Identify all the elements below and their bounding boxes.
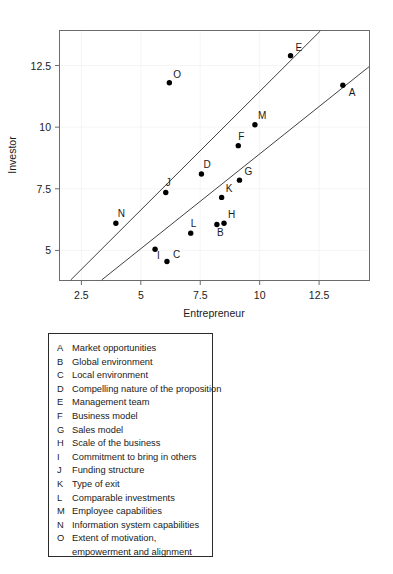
legend-item: NInformation system capabilities (57, 519, 206, 533)
legend-item: JFunding structure (57, 464, 206, 478)
legend-item: LComparable investments (57, 492, 206, 506)
legend-item-description: Sales model (72, 424, 206, 438)
legend-item: BGlobal environment (57, 356, 206, 370)
chart-svg: 2.557.51012.5 57.51012.5 ABCDEFGHIJKLMNO… (0, 0, 393, 320)
legend-item-key: C (57, 369, 72, 383)
data-point-label: A (349, 87, 356, 98)
y-axis-ticks: 57.51012.5 (31, 60, 60, 257)
data-point-label: J (166, 177, 171, 188)
legend-item-description: Comparable investments (72, 492, 206, 506)
legend-item-key: O (57, 532, 72, 546)
data-point (288, 53, 293, 58)
legend-item: MEmployee capabilities (57, 505, 206, 519)
data-point-label: G (244, 166, 252, 177)
legend-item-description: Compelling nature of the proposition (72, 383, 221, 397)
y-tick-label: 5 (45, 244, 51, 256)
data-point (188, 230, 193, 235)
legend-box: AMarket opportunitiesBGlobal environment… (48, 333, 213, 557)
data-point (199, 171, 204, 176)
x-tick-label: 5 (138, 289, 144, 301)
legend-item-description: Scale of the business (72, 437, 206, 451)
scatter-chart: 2.557.51012.5 57.51012.5 ABCDEFGHIJKLMNO… (0, 0, 393, 320)
y-axis-title: Investor (6, 136, 18, 174)
data-point-label: O (173, 69, 181, 80)
legend-item-description: Extent of motivation, (72, 532, 206, 546)
legend-item: OExtent of motivation, (57, 532, 206, 546)
data-point (219, 195, 224, 200)
legend-item: ICommitment to bring in others (57, 451, 206, 465)
legend-item-description: Type of exit (72, 478, 206, 492)
legend-item-description: Management team (72, 396, 206, 410)
data-point-label: H (228, 209, 235, 220)
legend-item: KType of exit (57, 478, 206, 492)
line-1 (71, 31, 321, 280)
data-point-label: L (191, 218, 197, 229)
legend-item-description: Commitment to bring in others (72, 451, 206, 465)
data-point (167, 80, 172, 85)
data-point (340, 83, 345, 88)
legend-item-key: A (57, 342, 72, 356)
data-point-label: E (296, 42, 303, 53)
legend-item-key: L (57, 492, 72, 506)
data-point (163, 190, 168, 195)
data-point-label: N (118, 208, 125, 219)
data-point (236, 143, 241, 148)
plot-frame (60, 31, 370, 281)
legend-item: DCompelling nature of the proposition (57, 383, 206, 397)
gridlines (60, 31, 369, 280)
legend-item-key: F (57, 410, 72, 424)
legend-item-key: K (57, 478, 72, 492)
y-tick-label: 7.5 (36, 183, 51, 195)
legend-item-key: G (57, 424, 72, 438)
data-point-label: K (226, 183, 233, 194)
legend-item-key: N (57, 519, 72, 533)
legend-item-description: Employee capabilities (72, 505, 206, 519)
x-tick-label: 7.5 (193, 289, 208, 301)
legend-item-description: Business model (72, 410, 206, 424)
trend-lines (71, 31, 369, 280)
data-point (164, 259, 169, 264)
legend-item-key: E (57, 396, 72, 410)
legend-item: CLocal environment (57, 369, 206, 383)
data-point-label: C (173, 249, 180, 260)
x-tick-label: 12.5 (309, 289, 330, 301)
data-point-label: F (238, 131, 244, 142)
legend-item-description: Local environment (72, 369, 206, 383)
x-axis-ticks: 2.557.51012.5 (74, 280, 329, 301)
data-point-label: D (203, 159, 210, 170)
legend-item-key: H (57, 437, 72, 451)
legend-item-key: M (57, 505, 72, 519)
legend-item-key: D (57, 383, 72, 397)
legend-item: GSales model (57, 424, 206, 438)
data-point-label: B (217, 227, 224, 238)
legend-item: FBusiness model (57, 410, 206, 424)
legend-item-description-continued: empowerment and alignment (57, 546, 206, 560)
legend-item-key: I (57, 451, 72, 465)
line-2 (102, 67, 369, 280)
legend-item-description: Funding structure (72, 464, 206, 478)
legend-item-description: Market opportunities (72, 342, 206, 356)
legend-item-key: B (57, 356, 72, 370)
x-tick-label: 10 (254, 289, 266, 301)
data-points: ABCDEFGHIJKLMNO (113, 42, 356, 265)
data-point (237, 177, 242, 182)
x-tick-label: 2.5 (74, 289, 89, 301)
data-point (221, 221, 226, 226)
y-tick-label: 12.5 (31, 60, 52, 72)
x-axis-title: Entrepreneur (183, 307, 245, 319)
legend-item: EManagement team (57, 396, 206, 410)
data-point (252, 122, 257, 127)
data-point (113, 221, 118, 226)
legend-item-key: J (57, 464, 72, 478)
data-point-label: I (157, 250, 160, 261)
data-point-label: M (258, 110, 266, 121)
legend-item-description: Global environment (72, 356, 206, 370)
legend-item: AMarket opportunities (57, 342, 206, 356)
y-tick-label: 10 (39, 121, 51, 133)
legend-item-description: Information system capabilities (72, 519, 206, 533)
legend-item: HScale of the business (57, 437, 206, 451)
